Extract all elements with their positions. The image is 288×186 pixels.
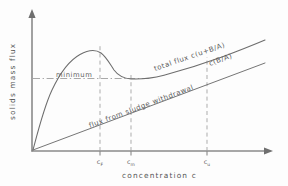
tick-label-cf-sub: F xyxy=(100,162,103,167)
chart-canvas: solids mass flux concentration c minimum… xyxy=(0,0,288,186)
withdrawal-expression-label: c(B/A) xyxy=(208,52,234,68)
arrow-up-icon xyxy=(28,9,35,18)
solids-flux-chart: solids mass flux concentration c minimum… xyxy=(0,0,288,186)
arrow-right-icon xyxy=(264,147,273,154)
y-axis-title: solids mass flux xyxy=(8,43,17,120)
axis-group xyxy=(28,9,273,155)
tick-label-cm: cm xyxy=(127,158,135,167)
tick-label-cu-sub: u xyxy=(207,162,210,167)
sludge-withdrawal-label: flux from sludge withdrawal xyxy=(88,83,195,129)
minimum-label: minimum xyxy=(56,71,92,79)
tick-label-cm-sub: m xyxy=(131,162,135,167)
tick-label-cu: cu xyxy=(204,158,211,167)
tick-label-cf: cF xyxy=(97,158,104,167)
x-axis-title: concentration c xyxy=(122,171,197,180)
x-tick-labels: cF cm cu xyxy=(97,158,210,167)
